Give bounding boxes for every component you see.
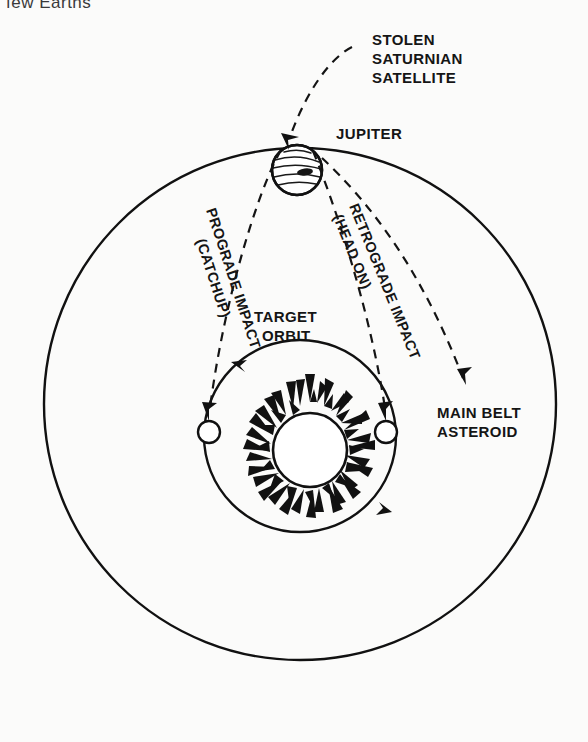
target-planet-right — [375, 421, 397, 443]
label-stolen-line-2: SATURNIAN — [372, 50, 463, 67]
label-prograde-impact: PROGRADE IMPACT (CATCHUP) — [185, 206, 264, 356]
sun-body — [243, 374, 375, 518]
label-main-belt-line-2: ASTEROID — [437, 423, 518, 440]
label-jupiter: JUPITER — [336, 125, 402, 142]
figure-root: few Earths — [0, 0, 588, 742]
label-stolen-line-3: SATELLITE — [372, 69, 456, 86]
target-planet-left — [198, 421, 220, 443]
label-retrograde-impact: RETROGRADE IMPACT (HEAD ON) — [329, 201, 424, 369]
label-main-belt-line-1: MAIN BELT — [437, 404, 521, 421]
target-orbit-direction-arrow-bottom — [376, 502, 392, 515]
main-belt-asteroid-arrowhead — [457, 367, 472, 385]
orbital-impact-diagram: STOLEN SATURNIAN SATELLITE JUPITER PROGR… — [0, 0, 588, 742]
label-stolen-saturnian-satellite: STOLEN SATURNIAN SATELLITE — [372, 31, 463, 86]
label-target-orbit-line-1: TARGET — [254, 308, 317, 325]
label-target-orbit-line-2: ORBIT — [262, 327, 311, 344]
retrograde-impact-trajectory — [313, 151, 385, 408]
prograde-impact-arrowhead — [202, 402, 217, 421]
label-stolen-line-1: STOLEN — [372, 31, 435, 48]
label-main-belt-asteroid: MAIN BELT ASTEROID — [437, 404, 521, 440]
incoming-satellite-trajectory — [290, 47, 352, 137]
label-target-orbit: TARGET ORBIT — [254, 308, 317, 344]
